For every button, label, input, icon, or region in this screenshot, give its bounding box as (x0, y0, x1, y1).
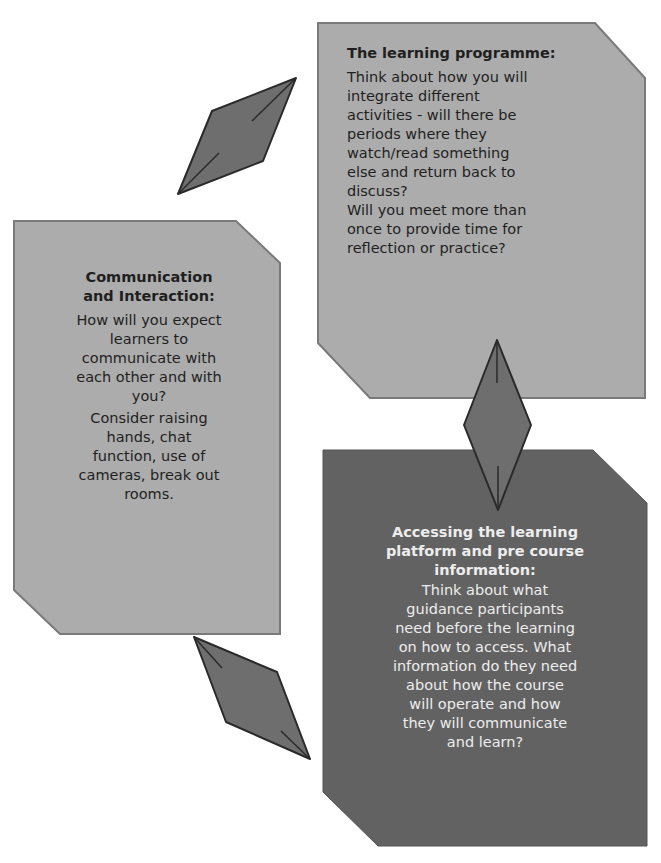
learning-programme-content: The learning programme: Think about how … (347, 44, 637, 258)
accessing-platform-text: Think about what guidance participants n… (335, 581, 635, 752)
communication-suggestion: Consider raising hands, chat function, u… (30, 409, 268, 504)
accessing-platform-title: Accessing the learning platform and pre … (335, 523, 635, 580)
learning-programme-text: Think about how you will integrate diffe… (347, 68, 637, 258)
accessing-platform-content: Accessing the learning platform and pre … (335, 523, 635, 752)
learning-programme-title: The learning programme: (347, 44, 637, 63)
diamond-connector-icon (194, 637, 310, 759)
communication-question: How will you expect learners to communic… (30, 311, 268, 406)
diamond-connector-icon (178, 78, 296, 194)
communication-title: Communication and Interaction: (30, 268, 268, 306)
communication-content: Communication and Interaction: How will … (30, 268, 268, 504)
